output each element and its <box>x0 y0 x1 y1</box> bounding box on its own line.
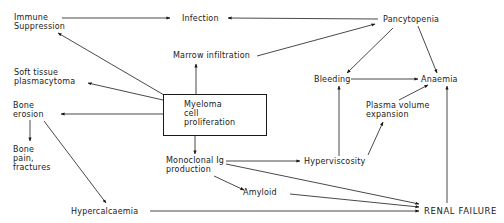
node-monoclonal-ig: Monoclonal Ig production <box>166 156 224 174</box>
node-pancytopenia: Pancytopenia <box>383 15 439 24</box>
edge-amyloid-renal <box>290 194 419 207</box>
edge-pancytopenia-anaemia <box>418 26 437 73</box>
node-marrow-infiltration: Marrow infiltration <box>173 51 250 60</box>
node-bone-erosion: Bone erosion <box>13 101 44 119</box>
edge-monoclonal-amyloid <box>214 176 244 190</box>
myeloma-pathophysiology-diagram: Immune Suppression Infection Pancytopeni… <box>0 0 504 223</box>
edge-hyperviscosity-plasma <box>368 122 383 155</box>
edge-monoclonal-renal <box>226 164 419 204</box>
edge-myeloma-softtissue <box>88 83 163 100</box>
node-hypercalcaemia: Hypercalcaemia <box>71 207 138 216</box>
node-soft-tissue-plasmacytoma: Soft tissue plasmacytoma <box>14 68 75 86</box>
edge-marrow-pancytopenia <box>257 24 375 56</box>
node-bone-pain-fractures: Bone pain, fractures <box>13 145 51 172</box>
node-immune-suppression: Immune Suppression <box>14 13 65 31</box>
node-hyperviscosity: Hyperviscosity <box>304 157 366 166</box>
node-plasma-volume-expansion: Plasma volume expansion <box>366 101 430 119</box>
node-amyloid: Amyloid <box>243 188 277 197</box>
node-renal-failure: RENAL FAILURE <box>424 207 497 216</box>
edge-plasma-anaemia <box>399 85 428 100</box>
edge-pancytopenia-infection <box>228 18 378 19</box>
node-infection: Infection <box>182 14 219 23</box>
edge-boneerosion-hypercalcaemia <box>44 121 106 203</box>
node-anaemia: Anaemia <box>421 75 458 84</box>
node-myeloma: Myeloma cell proliferation <box>184 100 235 127</box>
node-bleeding: Bleeding <box>314 75 351 84</box>
edge-pancytopenia-bleeding <box>347 28 393 73</box>
